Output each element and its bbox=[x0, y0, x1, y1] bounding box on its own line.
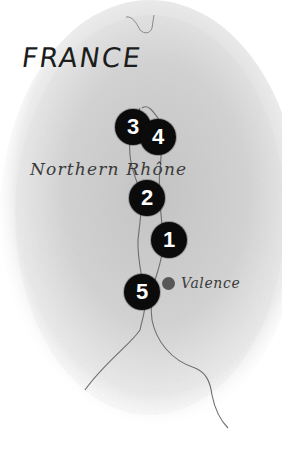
country-label: FRANCE bbox=[20, 42, 144, 73]
city-label-valence: Valence bbox=[181, 275, 240, 291]
marker-number: 4 bbox=[152, 124, 164, 150]
map-marker-4[interactable]: 4 bbox=[140, 119, 176, 155]
city-dot-valence bbox=[162, 277, 175, 290]
region-label: Northern Rhône bbox=[30, 159, 187, 179]
map-marker-1[interactable]: 1 bbox=[151, 222, 187, 258]
map-marker-5[interactable]: 5 bbox=[124, 274, 160, 310]
map-marker-2[interactable]: 2 bbox=[129, 180, 165, 216]
region-map: FRANCE Northern Rhône Valence 3 4 2 1 5 bbox=[0, 0, 282, 455]
marker-number: 1 bbox=[163, 227, 175, 253]
marker-number: 3 bbox=[127, 114, 139, 140]
marker-number: 2 bbox=[141, 185, 153, 211]
marker-number: 5 bbox=[136, 279, 148, 305]
